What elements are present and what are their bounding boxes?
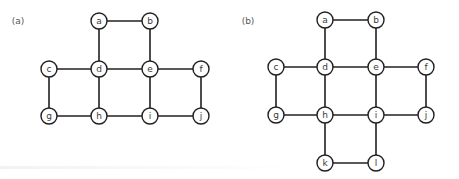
node-label: j: [199, 111, 203, 121]
node-k: k: [317, 155, 333, 171]
node-g: g: [41, 108, 57, 124]
node-b: b: [368, 12, 384, 28]
node-c: c: [41, 61, 57, 77]
node-label: i: [149, 111, 152, 121]
node-e: e: [142, 61, 158, 77]
node-label: b: [147, 16, 153, 26]
node-b: b: [142, 13, 158, 29]
node-label: g: [46, 111, 52, 121]
node-l: l: [368, 155, 384, 171]
graph-b: (b)abcdefghijkl: [242, 12, 434, 171]
node-g: g: [268, 107, 284, 123]
node-label: g: [273, 110, 279, 120]
node-j: j: [418, 107, 434, 123]
node-d: d: [317, 59, 333, 75]
panel-label: (a): [12, 16, 25, 26]
node-d: d: [91, 61, 107, 77]
node-e: e: [368, 59, 384, 75]
node-label: c: [274, 62, 279, 72]
node-f: f: [418, 59, 434, 75]
node-label: k: [322, 158, 328, 168]
node-label: e: [147, 64, 153, 74]
node-label: d: [322, 62, 328, 72]
panel-label: (b): [242, 16, 255, 26]
node-label: h: [322, 110, 328, 120]
node-j: j: [193, 108, 209, 124]
node-label: h: [96, 111, 102, 121]
graph-a: (a)abcdefghij: [12, 13, 209, 124]
node-label: a: [322, 15, 328, 25]
node-i: i: [368, 107, 384, 123]
node-i: i: [142, 108, 158, 124]
node-label: i: [375, 110, 378, 120]
node-label: a: [96, 16, 102, 26]
node-a: a: [317, 12, 333, 28]
node-c: c: [268, 59, 284, 75]
node-h: h: [317, 107, 333, 123]
node-label: d: [96, 64, 102, 74]
node-a: a: [91, 13, 107, 29]
node-label: e: [373, 62, 379, 72]
node-label: l: [375, 158, 378, 168]
node-label: j: [424, 110, 428, 120]
node-label: b: [373, 15, 379, 25]
node-h: h: [91, 108, 107, 124]
graph-diagram-canvas: (a)abcdefghij(b)abcdefghijkl: [0, 0, 459, 179]
node-f: f: [193, 61, 209, 77]
node-label: c: [47, 64, 52, 74]
